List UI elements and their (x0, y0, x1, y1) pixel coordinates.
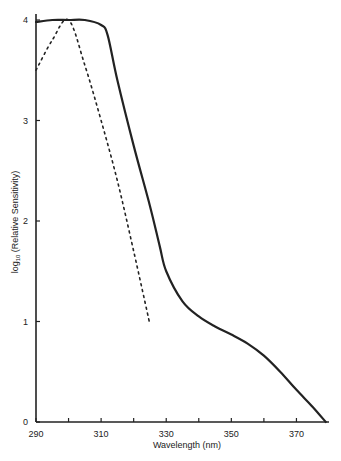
y-tick-label: 1 (23, 317, 28, 327)
x-tick-label: 290 (28, 429, 43, 439)
y-tick-label: 0 (23, 417, 28, 427)
x-tick-label: 310 (94, 429, 109, 439)
dashed-curve (36, 19, 150, 324)
x-tick-label: 330 (159, 429, 174, 439)
x-tick-label: 350 (224, 429, 239, 439)
y-tick-label: 2 (23, 216, 28, 226)
x-tick-label: 370 (289, 429, 304, 439)
y-tick-label: 3 (23, 116, 28, 126)
sensitivity-chart: 29031033035037001234 Wavelength (nm) log… (0, 0, 341, 461)
plot-series (36, 19, 326, 422)
x-axis-label: Wavelength (nm) (153, 440, 221, 450)
y-tick-label: 4 (23, 15, 28, 25)
y-axis-label: log10 (Relative Sensitivity) (10, 171, 21, 274)
solid-curve (36, 20, 326, 422)
